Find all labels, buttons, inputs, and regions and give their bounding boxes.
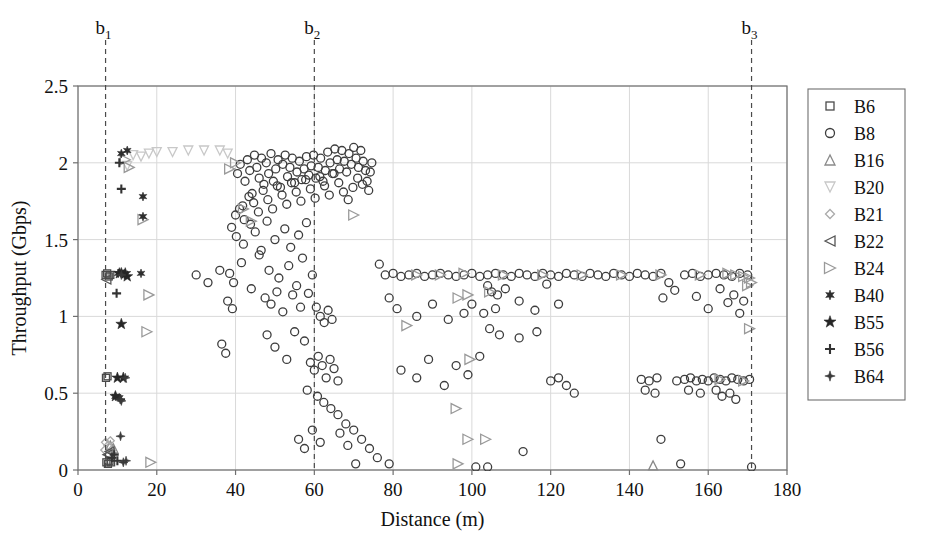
- data-point-B8: [335, 179, 343, 187]
- data-point-B8: [224, 297, 232, 305]
- x-tick-label: 100: [458, 479, 487, 500]
- data-point-B8: [278, 191, 286, 199]
- series-B55: [110, 268, 133, 401]
- x-tick-label: 160: [694, 479, 723, 500]
- x-tick-label: 140: [615, 479, 644, 500]
- data-point-B8: [464, 371, 472, 379]
- data-point-B8: [421, 272, 429, 280]
- data-point-B8: [239, 240, 247, 248]
- data-point-B24: [144, 290, 154, 300]
- series-B64: [116, 270, 131, 467]
- series-B20: [123, 146, 232, 170]
- data-point-B8: [523, 271, 531, 279]
- data-point-B8: [562, 382, 570, 390]
- data-point-B56: [115, 158, 124, 167]
- annotation-label-b2: b2: [304, 17, 320, 42]
- data-point-B8: [645, 377, 653, 385]
- data-point-B24: [453, 293, 463, 303]
- series-B56: [107, 158, 125, 465]
- data-point-B8: [230, 279, 238, 287]
- x-tick-label: 180: [773, 479, 802, 500]
- data-point-B8: [228, 223, 236, 231]
- data-point-B8: [320, 398, 328, 406]
- data-point-B8: [285, 262, 293, 270]
- data-point-B8: [283, 355, 291, 363]
- data-point-B8: [515, 297, 523, 305]
- data-point-B8: [555, 300, 563, 308]
- data-point-B8: [300, 337, 308, 345]
- data-point-B8: [234, 170, 242, 178]
- data-point-B56: [117, 184, 126, 193]
- data-point-B8: [476, 352, 484, 360]
- data-point-B24: [481, 434, 491, 444]
- data-point-B40: [139, 212, 147, 221]
- data-point-B8: [637, 375, 645, 383]
- annotation-label-b1: b1: [96, 17, 112, 42]
- data-point-B8: [265, 170, 273, 178]
- data-point-B8: [263, 217, 271, 225]
- data-point-B8: [304, 289, 312, 297]
- x-axis-title: Distance (m): [381, 508, 485, 531]
- data-point-B8: [484, 271, 492, 279]
- legend-label-B16: B16: [854, 151, 884, 171]
- data-point-B8: [320, 319, 328, 327]
- data-point-B8: [272, 165, 280, 173]
- data-point-B8: [275, 274, 283, 282]
- series-B8: [192, 143, 755, 470]
- data-point-B8: [295, 231, 303, 239]
- y-axis-title: Throughput (Gbps): [8, 201, 31, 356]
- data-point-B8: [324, 306, 332, 314]
- legend-label-B6: B6: [854, 97, 875, 117]
- data-point-B8: [318, 362, 326, 370]
- data-point-B8: [267, 300, 275, 308]
- data-point-B8: [295, 435, 303, 443]
- data-point-B8: [724, 299, 732, 307]
- data-point-B8: [325, 191, 333, 199]
- data-point-B8: [258, 154, 266, 162]
- y-tick-label: 1: [59, 306, 69, 327]
- data-point-B8: [216, 266, 224, 274]
- y-tick-label: 0.5: [44, 383, 68, 404]
- data-point-B8: [681, 271, 689, 279]
- data-point-B8: [295, 157, 303, 165]
- data-point-B8: [316, 438, 324, 446]
- data-point-B8: [562, 269, 570, 277]
- data-point-B8: [543, 280, 551, 288]
- data-point-B8: [358, 435, 366, 443]
- data-point-B8: [326, 355, 334, 363]
- data-point-B8: [507, 272, 515, 280]
- legend-label-B55: B55: [854, 313, 884, 333]
- data-point-B8: [218, 340, 226, 348]
- y-tick-label: 1.5: [44, 230, 68, 251]
- data-point-B8: [279, 308, 287, 316]
- y-tick-label: 0: [59, 460, 69, 481]
- data-point-B8: [515, 269, 523, 277]
- data-point-B8: [659, 294, 667, 302]
- data-point-B8: [730, 291, 738, 299]
- data-point-B8: [311, 194, 319, 202]
- data-point-B8: [297, 197, 305, 205]
- data-point-B8: [297, 303, 305, 311]
- data-point-B8: [263, 331, 271, 339]
- data-point-B8: [602, 272, 610, 280]
- data-point-B8: [312, 303, 320, 311]
- data-point-B8: [397, 272, 405, 280]
- data-point-B24: [453, 459, 463, 469]
- y-tick-label: 2.5: [44, 76, 68, 97]
- data-point-B8: [519, 448, 527, 456]
- data-point-B8: [322, 374, 330, 382]
- data-point-B8: [365, 444, 373, 452]
- data-point-B8: [222, 349, 230, 357]
- data-point-B8: [327, 405, 335, 413]
- data-point-B8: [281, 225, 289, 233]
- data-point-B8: [677, 460, 685, 468]
- data-point-B8: [255, 251, 263, 259]
- data-point-B8: [440, 382, 448, 390]
- data-point-B24: [451, 404, 461, 414]
- data-point-B8: [633, 269, 641, 277]
- data-point-B8: [366, 168, 374, 176]
- x-tick-label: 120: [536, 479, 565, 500]
- data-point-B8: [359, 157, 367, 165]
- series-B24: [120, 155, 756, 469]
- data-point-B8: [287, 243, 295, 251]
